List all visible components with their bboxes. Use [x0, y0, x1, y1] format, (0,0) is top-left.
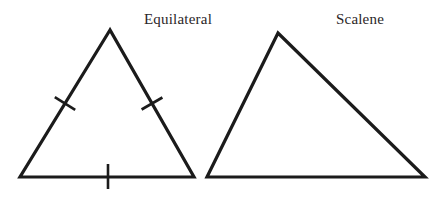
equilateral-label: Equilateral	[144, 11, 212, 28]
scalene-label: Scalene	[336, 11, 384, 28]
scalene-triangle-shape	[207, 33, 425, 177]
equilateral-triangle-tick-right-side	[142, 98, 163, 110]
triangle-types-figure: Equilateral Scalene	[0, 0, 442, 199]
triangles-svg	[0, 0, 442, 199]
equilateral-triangle-shape	[20, 30, 194, 177]
equilateral-triangle-tick-left-side	[55, 97, 75, 110]
